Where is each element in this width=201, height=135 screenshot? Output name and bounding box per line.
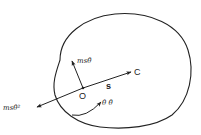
rigid-body-diagram: O C s msθ̈ msθ̇² θ̇ θ̈ [0,0,201,135]
body-outline [54,14,191,128]
label-tangential-force: msθ̈ [77,57,92,65]
rotation-arrow [72,102,101,115]
label-s: s [106,81,111,91]
pivot-point-o [82,87,85,90]
tangential-force-arrow [72,61,83,88]
label-rotation: θ̇ θ̈ [102,99,113,107]
label-o: O [79,91,86,101]
centripetal-force-arrow [37,88,83,107]
label-c: C [134,67,141,77]
label-centripetal-force: msθ̇² [3,104,20,112]
